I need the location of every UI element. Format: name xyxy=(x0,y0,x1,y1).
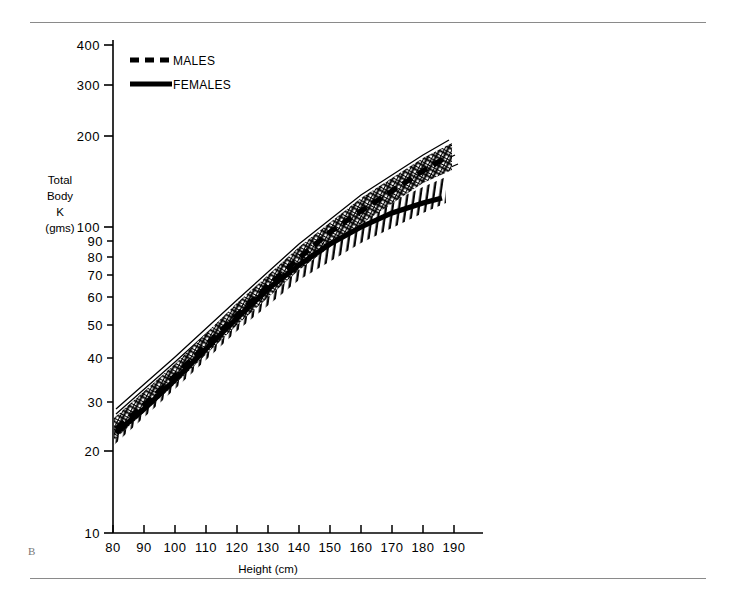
legend-entry-females: FEMALES xyxy=(130,78,231,92)
chart-svg: 400 300 200 100 90 80 70 60 50 40 30 xyxy=(0,0,735,605)
x-tick-label: 170 xyxy=(380,540,403,555)
x-axis-title: Height (cm) xyxy=(238,563,298,575)
y-axis-title: Total Body K (gms) xyxy=(45,174,75,234)
legend-entry-males: MALES xyxy=(130,54,215,68)
y-tick-label: 100 xyxy=(77,220,100,235)
x-tick-170: 170 xyxy=(380,525,403,555)
x-tick-150: 150 xyxy=(318,525,341,555)
y-tick-10: 10 xyxy=(85,526,113,541)
y-tick-400: 400 xyxy=(77,38,113,53)
y-tick-label: 80 xyxy=(88,250,103,265)
y-axis-title-line: (gms) xyxy=(45,222,75,234)
x-tick-label: 110 xyxy=(195,540,217,555)
x-tick-190: 190 xyxy=(442,525,465,555)
y-tick-label: 90 xyxy=(88,234,103,249)
y-tick-100: 100 xyxy=(77,220,113,235)
y-tick-label: 50 xyxy=(88,318,103,333)
y-tick-label: 300 xyxy=(77,78,100,93)
x-tick-110: 110 xyxy=(195,525,217,555)
x-tick-180: 180 xyxy=(411,525,434,555)
x-tick-90: 90 xyxy=(136,525,151,555)
female-confidence-band xyxy=(114,177,446,445)
x-tick-130: 130 xyxy=(256,525,279,555)
y-tick-50: 50 xyxy=(88,318,113,333)
y-tick-30: 30 xyxy=(88,395,113,410)
x-tick-label: 180 xyxy=(411,540,434,555)
y-tick-40: 40 xyxy=(88,351,113,366)
y-tick-90: 90 xyxy=(88,234,113,249)
x-tick-label: 80 xyxy=(105,540,120,555)
x-tick-label: 120 xyxy=(225,540,248,555)
x-tick-label: 190 xyxy=(442,540,465,555)
chart-canvas: 400 300 200 100 90 80 70 60 50 40 30 xyxy=(0,0,735,605)
y-tick-200: 200 xyxy=(77,129,113,144)
axes xyxy=(113,40,483,533)
y-tick-label: 70 xyxy=(88,268,103,283)
y-tick-300: 300 xyxy=(77,78,113,93)
y-tick-label: 40 xyxy=(88,351,103,366)
y-tick-80: 80 xyxy=(88,250,113,265)
x-tick-label: 130 xyxy=(256,540,279,555)
y-axis-title-line: Body xyxy=(47,190,73,202)
y-tick-70: 70 xyxy=(88,268,113,283)
chart-legend: MALES FEMALES xyxy=(130,54,231,92)
y-tick-label: 10 xyxy=(85,526,100,541)
x-tick-160: 160 xyxy=(349,525,372,555)
y-tick-label: 30 xyxy=(88,395,103,410)
y-tick-label: 200 xyxy=(77,129,100,144)
x-tick-140: 140 xyxy=(287,525,310,555)
y-axis-title-line: Total xyxy=(48,174,72,186)
legend-label-males: MALES xyxy=(173,54,215,68)
data-bands xyxy=(114,140,458,445)
x-tick-100: 100 xyxy=(163,525,186,555)
y-tick-20: 20 xyxy=(85,444,113,459)
y-tick-label: 20 xyxy=(85,444,100,459)
x-tick-label: 90 xyxy=(136,540,151,555)
x-tick-label: 160 xyxy=(349,540,372,555)
x-tick-label: 140 xyxy=(287,540,310,555)
y-axis-title-line: K xyxy=(56,206,64,218)
y-tick-label: 60 xyxy=(88,290,103,305)
x-tick-label: 150 xyxy=(318,540,341,555)
x-tick-80: 80 xyxy=(105,525,120,555)
y-tick-label: 400 xyxy=(77,38,100,53)
x-axis-ticks: 80 90 100 110 120 130 140 150 160 170 18… xyxy=(105,525,465,555)
legend-label-females: FEMALES xyxy=(173,78,231,92)
y-tick-60: 60 xyxy=(88,290,113,305)
x-tick-label: 100 xyxy=(163,540,186,555)
y-axis-ticks: 400 300 200 100 90 80 70 60 50 40 30 xyxy=(77,38,113,541)
x-tick-120: 120 xyxy=(225,525,248,555)
